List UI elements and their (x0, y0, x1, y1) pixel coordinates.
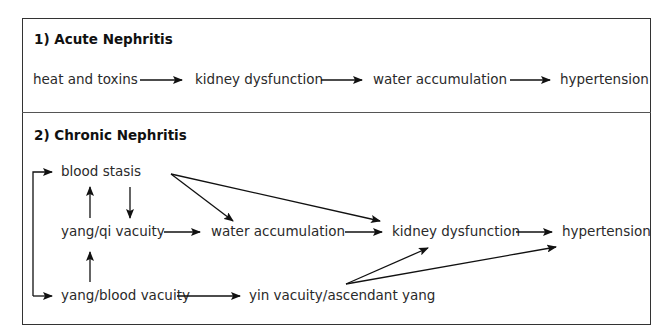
arrow-bracket-to-blood-stasis (33, 172, 52, 296)
diagram-arrows (0, 0, 668, 335)
arrow-yin-to-hypertension (346, 247, 556, 284)
arrow-yin-to-kidney (346, 248, 428, 284)
